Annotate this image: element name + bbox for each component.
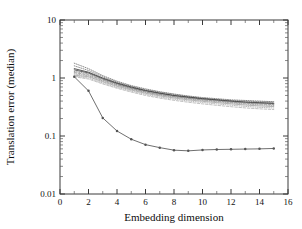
x-tick-labels: 0246810121416 (58, 197, 293, 207)
y-tick-label: 10 (47, 15, 57, 25)
x-tick-label: 6 (143, 197, 148, 207)
x-axis-title: Embedding dimension (124, 211, 224, 223)
x-tick-label: 4 (115, 197, 120, 207)
data-point-marker (201, 149, 204, 152)
data-point-marker (73, 76, 76, 79)
data-point-marker (87, 90, 90, 93)
data-point-marker (258, 148, 261, 151)
x-tick-label: 2 (86, 197, 91, 207)
data-point-marker (144, 143, 147, 146)
y-axis-title: Translation error (median) (4, 49, 17, 166)
data-point-marker (130, 138, 133, 141)
figure-container: 0246810121416 0.010.1110 Embedding dimen… (0, 0, 302, 229)
data-point-marker (187, 150, 190, 153)
y-tick-label: 0.01 (40, 189, 56, 199)
x-tick-label: 16 (284, 197, 294, 207)
data-point-marker (244, 148, 247, 151)
data-point-marker (230, 148, 233, 151)
series-line-proposed (74, 77, 274, 151)
data-point-marker (216, 148, 219, 151)
data-point-marker (102, 117, 105, 120)
x-tick-label: 10 (198, 197, 208, 207)
series-line-baseline-4 (74, 70, 274, 104)
x-tick-label: 14 (255, 197, 265, 207)
y-tick-label: 1 (52, 73, 57, 83)
data-point-marker (173, 149, 176, 152)
chart-canvas: 0246810121416 0.010.1110 Embedding dimen… (0, 0, 302, 229)
x-tick-label: 12 (227, 197, 236, 207)
y-tick-label: 0.1 (45, 131, 56, 141)
data-point-marker (116, 130, 119, 133)
data-point-marker (159, 146, 162, 149)
data-point-marker (273, 147, 276, 150)
y-tick-labels: 0.010.1110 (40, 15, 56, 199)
data-series-group (73, 63, 275, 152)
x-tick-label: 0 (58, 197, 63, 207)
x-tick-label: 8 (172, 197, 177, 207)
